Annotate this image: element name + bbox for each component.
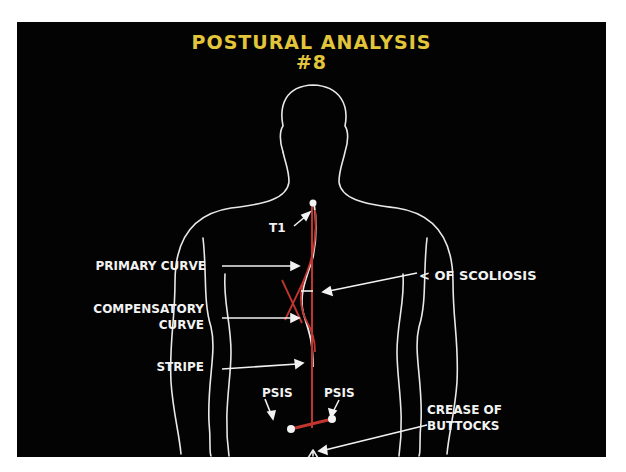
label-stripe: STRIPE: [156, 360, 204, 375]
label-crease-2: BUTTOCKS: [427, 419, 500, 434]
label-primary-curve: PRIMARY CURVE: [96, 259, 206, 274]
label-compensatory-curve-1: COMPENSATORY: [93, 302, 204, 317]
label-crease-1: CREASE OF: [427, 403, 502, 418]
label-angle-of-scoliosis: < OF SCOLIOSIS: [419, 268, 537, 283]
label-compensatory-curve-2: CURVE: [159, 318, 204, 333]
label-t1: T1: [269, 221, 286, 236]
diagram-slide: POSTURAL ANALYSIS #8: [17, 22, 606, 457]
label-psis-left: PSIS: [262, 386, 293, 401]
body-figure: [17, 22, 606, 457]
label-psis-right: PSIS: [324, 386, 355, 401]
